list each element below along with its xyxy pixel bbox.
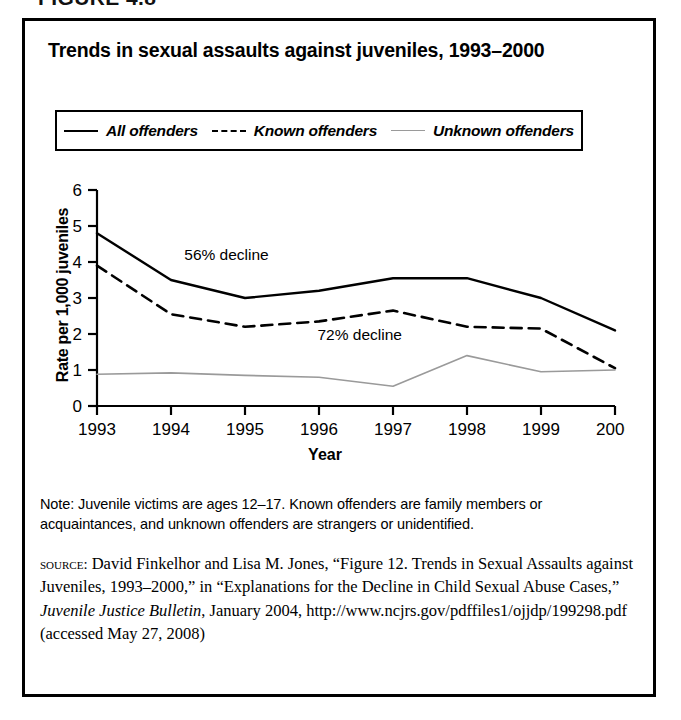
x-tick-label: 2000 (596, 420, 625, 439)
y-tick-label: 1 (73, 361, 82, 380)
chart-note: Note: Juvenile victims are ages 12–17. K… (40, 494, 640, 534)
legend-item-known-offenders: Known offenders (212, 122, 377, 140)
chart-plot-area: Rate per 1,000 juveniles 012345619931994… (25, 178, 625, 488)
legend-item-all-offenders: All offenders (64, 122, 198, 140)
legend-label-all-offenders: All offenders (106, 122, 198, 140)
chart-source: source: David Finkelhor and Lisa M. Jone… (40, 552, 646, 646)
line-chart: 0123456199319941995199619971998199920005… (25, 178, 625, 443)
x-tick-label: 1999 (522, 420, 560, 439)
legend-label-unknown-offenders: Unknown offenders (433, 122, 574, 140)
y-tick-label: 2 (73, 325, 82, 344)
x-tick-label: 1993 (78, 420, 116, 439)
source-publication-title: Juvenile Justice Bulletin (40, 601, 201, 620)
x-tick-label: 1994 (152, 420, 190, 439)
legend-line-solid-icon (64, 130, 98, 132)
y-tick-label: 6 (73, 181, 82, 200)
y-tick-label: 3 (73, 289, 82, 308)
x-tick-label: 1996 (300, 420, 338, 439)
chart-annotation: 56% decline (184, 246, 268, 263)
y-tick-label: 5 (73, 217, 82, 236)
legend-item-unknown-offenders: Unknown offenders (391, 122, 574, 140)
source-text-first: David Finkelhor and Lisa M. Jones, “Figu… (40, 554, 633, 596)
x-axis-title: Year (25, 446, 625, 464)
legend-line-dashed-icon (212, 130, 246, 132)
legend-label-known-offenders: Known offenders (254, 122, 377, 140)
y-tick-label: 4 (73, 253, 82, 272)
figure-number: FIGURE 4.8 (38, 0, 156, 10)
chart-annotation: 72% decline (317, 326, 401, 343)
x-tick-label: 1997 (374, 420, 412, 439)
y-tick-label: 0 (73, 397, 82, 416)
chart-series-line (97, 356, 615, 387)
chart-legend: All offenders Known offenders Unknown of… (55, 110, 583, 151)
x-tick-label: 1995 (226, 420, 264, 439)
legend-line-light-icon (391, 130, 425, 131)
figure-title: Trends in sexual assaults against juveni… (48, 39, 544, 62)
x-tick-label: 1998 (448, 420, 486, 439)
source-label: source: (40, 556, 88, 572)
